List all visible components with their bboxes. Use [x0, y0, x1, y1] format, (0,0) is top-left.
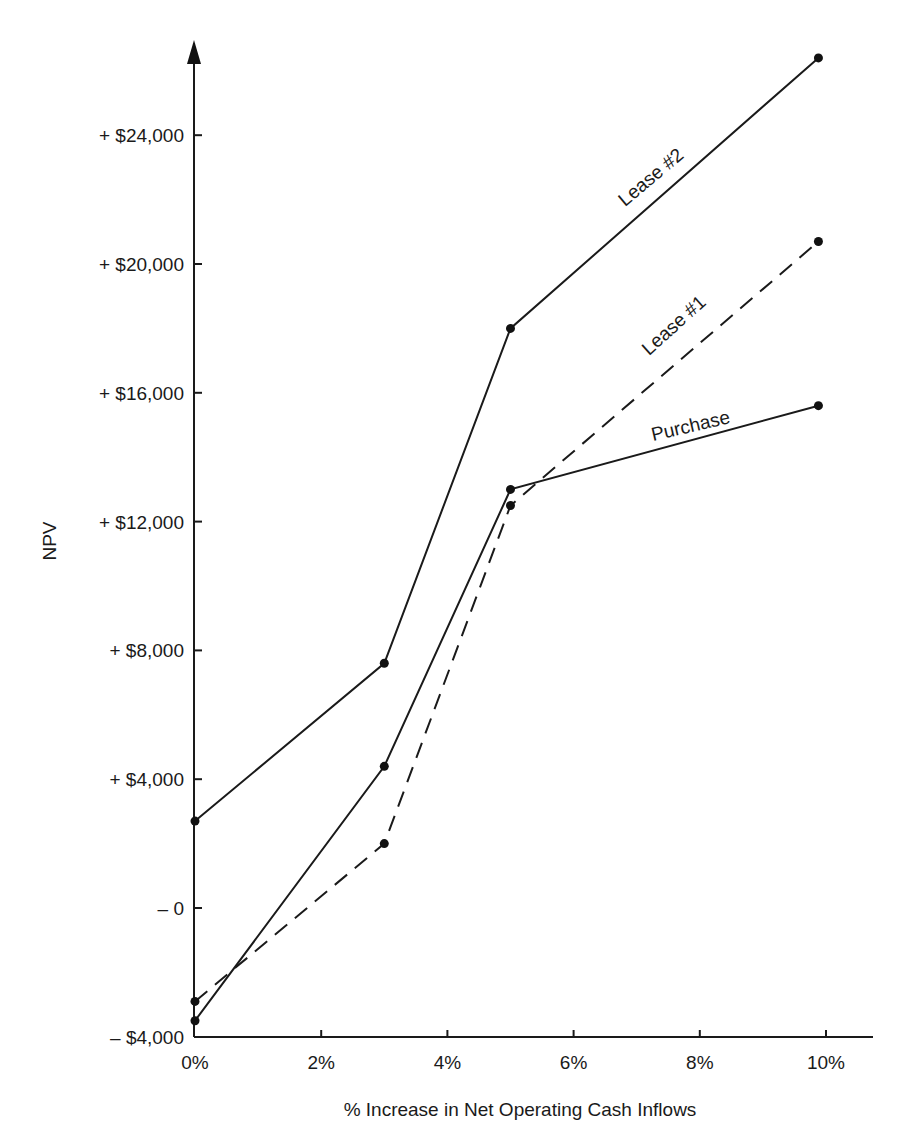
axes [187, 40, 873, 1037]
series-line-lease-1 [195, 242, 818, 1002]
data-point-purchase [506, 485, 515, 494]
y-tick-label: + $24,000 [99, 125, 184, 146]
data-point-purchase [191, 1016, 200, 1025]
label-lease-2: Lease #2 [614, 144, 687, 210]
npv-chart: – $4,000– 0+ $4,000+ $8,000+ $12,000+ $1… [0, 0, 907, 1143]
data-point-purchase [814, 401, 823, 410]
series-line-lease-2 [195, 58, 818, 821]
data-point-lease-2 [814, 53, 823, 62]
x-axis-title: % Increase in Net Operating Cash Inflows [344, 1099, 697, 1120]
y-tick-label: + $8,000 [110, 640, 185, 661]
data-point-lease-2 [380, 659, 389, 668]
data-point-purchase [380, 762, 389, 771]
data-point-lease-1 [191, 997, 200, 1006]
y-tick-label: + $20,000 [99, 254, 184, 275]
label-purchase: Purchase [649, 406, 732, 445]
series-lines [191, 53, 823, 1025]
y-tick-label: + $4,000 [110, 769, 185, 790]
y-axis-title: NPV [39, 521, 60, 560]
y-tick-label: + $12,000 [99, 512, 184, 533]
data-point-lease-2 [506, 324, 515, 333]
y-tick-label: – $4,000 [110, 1027, 184, 1048]
data-point-lease-1 [506, 501, 515, 510]
x-tick-label: 6% [560, 1052, 588, 1073]
x-tick-label: 2% [307, 1052, 335, 1073]
data-point-lease-1 [814, 237, 823, 246]
x-tick-label: 4% [434, 1052, 462, 1073]
data-point-lease-2 [191, 817, 200, 826]
x-tick-label: 10% [807, 1052, 845, 1073]
x-tick-label: 8% [686, 1052, 714, 1073]
y-axis-ticks: – $4,000– 0+ $4,000+ $8,000+ $12,000+ $1… [99, 125, 202, 1048]
series-line-purchase [195, 406, 818, 1021]
data-point-lease-1 [380, 839, 389, 848]
label-lease-1: Lease #1 [638, 291, 710, 359]
x-tick-label: 0% [181, 1052, 209, 1073]
y-tick-label: – 0 [158, 898, 184, 919]
y-tick-label: + $16,000 [99, 383, 184, 404]
y-axis-arrow-icon [187, 40, 201, 64]
